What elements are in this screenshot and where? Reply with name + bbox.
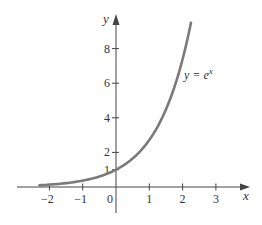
y-tick-label: 4 [104,111,110,125]
x-tick-label: −2 [41,192,54,206]
x-tick-label: 3 [213,192,219,206]
exp-curve [39,23,191,185]
y-tick-label: 8 [104,42,110,56]
curve-label: y = ex [183,66,213,82]
axes [17,14,250,213]
x-tick-label: 0 [107,192,113,206]
x-axis-label: x [242,188,249,203]
y-tick-label: 6 [104,76,110,90]
y-axis-label: y [101,11,109,26]
curve-label-sup: x [208,66,213,76]
curve-label-eq: = e [189,68,209,82]
y-tick-label: 2 [104,145,110,159]
y-axis-arrow-icon [113,14,120,25]
exponential-chart: −2−1012312468 x y y = ex [0,0,262,225]
ticks: −2−1012312468 [41,42,219,206]
x-tick-label: −1 [74,192,87,206]
x-tick-label: 2 [180,192,186,206]
x-tick-label: 1 [146,192,152,206]
